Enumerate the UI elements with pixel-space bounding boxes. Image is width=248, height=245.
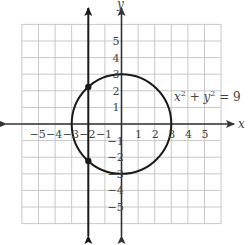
x-tick-label: 1 (135, 128, 142, 141)
x-tick-label: 4 (185, 128, 192, 141)
y-tick-label: −5 (108, 201, 124, 214)
y-tick-label: 3 (113, 68, 120, 81)
y-tick-label: 2 (113, 85, 120, 98)
y-tick-label: −2 (108, 151, 124, 164)
y-tick-label: −3 (108, 168, 124, 181)
x-tick-label: 5 (202, 128, 209, 141)
equation-label: x2 + y2 = 9 (174, 89, 241, 104)
intersection-point-lower (85, 158, 91, 164)
y-axis-label: y (116, 0, 124, 11)
graph-canvas: x y −5−4−3−2−112345 54321−1−2−3−4−5 x2 +… (0, 0, 248, 245)
x-tick-label: −2 (79, 128, 95, 141)
y-tick-label: −4 (108, 184, 124, 197)
y-tick-label: 4 (113, 52, 120, 65)
y-tick-label: −1 (108, 135, 124, 148)
x-axis-label: x (238, 117, 245, 131)
x-tick-label: 2 (152, 128, 159, 141)
x-tick-label: −5 (30, 128, 46, 141)
x-tick-label: −3 (63, 128, 79, 141)
y-tick-label: 5 (113, 35, 120, 48)
intersection-point-upper (85, 84, 91, 90)
x-tick-label: −4 (46, 128, 62, 141)
x-tick-label: 3 (168, 128, 175, 141)
y-tick-label: 1 (113, 101, 120, 114)
